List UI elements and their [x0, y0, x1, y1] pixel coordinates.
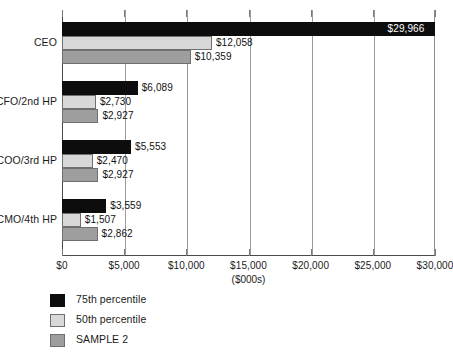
category-label-0: CEO [34, 36, 57, 48]
bar-value-label: $5,553 [135, 140, 166, 154]
bar-value-label: $6,089 [142, 81, 173, 95]
bar-value-label: $2,862 [102, 227, 133, 241]
bar [62, 227, 98, 241]
tick-mark [373, 10, 374, 17]
gridline [312, 10, 313, 255]
tick-mark [311, 249, 312, 256]
bar-value-label: $2,470 [97, 154, 128, 168]
tick-mark [249, 10, 250, 17]
x-tick-label: $25,000 [354, 260, 391, 271]
bar [62, 199, 106, 213]
tick-mark [124, 10, 125, 17]
gridline [374, 10, 375, 255]
bar-value-label: $3,559 [110, 199, 141, 213]
legend-swatch-icon [50, 294, 65, 307]
bar [62, 36, 212, 50]
x-tick-label: $30,000 [417, 260, 453, 271]
bar [62, 168, 98, 182]
bar-value-label: $29,966 [388, 22, 425, 36]
legend-label: 50th percentile [76, 313, 146, 325]
bar [62, 81, 138, 95]
tick-mark [124, 249, 125, 256]
legend-label: 75th percentile [76, 293, 146, 305]
bar [62, 50, 191, 64]
bar [62, 22, 435, 36]
category-label-2: COO/3rd HP [0, 154, 57, 166]
bar-value-label: $2,927 [102, 168, 133, 182]
tick-mark [62, 249, 63, 256]
bar-value-label: $10,359 [195, 50, 232, 64]
bar-value-label: $12,058 [216, 36, 253, 50]
category-label-1: CFO/2nd HP [0, 95, 57, 107]
x-tick-label: $0 [56, 260, 67, 271]
tick-mark [62, 10, 63, 17]
x-tick-label: $20,000 [292, 260, 329, 271]
bar [62, 95, 96, 109]
bar-chart: CEOCFO/2nd HPCOO/3rd HPCMO/4th HP $29,96… [0, 0, 453, 359]
x-axis-unit-label: ($000s) [232, 274, 266, 285]
x-tick-label: $5,000 [109, 260, 140, 271]
tick-mark [435, 10, 436, 17]
bar [62, 109, 98, 123]
bar [62, 213, 81, 227]
bar [62, 154, 93, 168]
bar [62, 140, 131, 154]
bar-value-label: $2,730 [100, 95, 131, 109]
legend-swatch-icon [50, 314, 65, 327]
tick-mark [435, 249, 436, 256]
category-label-3: CMO/4th HP [0, 213, 57, 225]
x-tick-label: $15,000 [230, 260, 267, 271]
tick-mark [186, 10, 187, 17]
x-tick-label: $10,000 [168, 260, 205, 271]
tick-mark [373, 249, 374, 256]
bar-value-label: $1,507 [85, 213, 116, 227]
tick-mark [249, 249, 250, 256]
tick-mark [186, 249, 187, 256]
legend-swatch-icon [50, 334, 65, 347]
legend-label: SAMPLE 2 [76, 333, 128, 345]
bar-value-label: $2,927 [102, 109, 133, 123]
tick-mark [311, 10, 312, 17]
